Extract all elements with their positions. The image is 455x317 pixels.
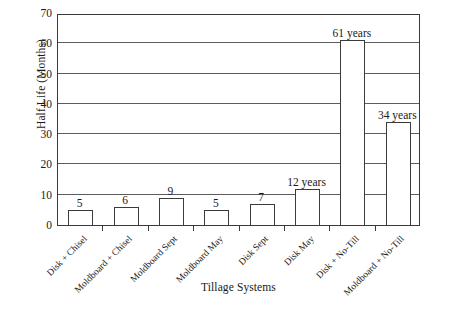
- y-axis-tick-label: 40: [6, 99, 52, 111]
- bar-value-label: 34 years: [378, 110, 417, 122]
- bar-chart-figure: Half Life (Months) 010203040506070 Tilla…: [0, 0, 455, 317]
- bar: [340, 40, 365, 225]
- x-axis-category-label-text: Moldboard May: [175, 233, 227, 285]
- bar-value-label: 7: [258, 192, 264, 204]
- x-axis-category-label-text: Disk May: [282, 233, 317, 268]
- x-axis-category-label-text: Disk + Chisel: [45, 233, 90, 278]
- x-axis-category-label-text: Disk Sept: [237, 233, 271, 267]
- bar-value-label: 6: [122, 195, 128, 207]
- bar-value-label: 61 years: [333, 28, 372, 40]
- y-axis-tick-label: 10: [6, 190, 52, 202]
- y-axis-tick-labels: 010203040506070: [0, 14, 52, 226]
- y-axis-tick-label: 0: [6, 220, 52, 232]
- bar-value-label: 5: [213, 198, 219, 210]
- y-axis-tick-label: 60: [6, 39, 52, 51]
- bar-value-label: 9: [168, 186, 174, 198]
- y-axis-tick-label: 20: [6, 160, 52, 172]
- x-axis-title: Tillage Systems: [57, 281, 420, 293]
- y-axis-tick-label: 30: [6, 129, 52, 141]
- bar-value-label: 12 years: [287, 177, 326, 189]
- bar-value-label: 5: [77, 198, 83, 210]
- bar: [295, 189, 320, 225]
- y-axis-tick-label: 70: [6, 8, 52, 20]
- plot-area: [57, 14, 420, 226]
- bar: [68, 210, 93, 225]
- y-axis-tick-label: 50: [6, 69, 52, 81]
- x-axis-category-label-text: Disk + No-Till: [315, 233, 363, 281]
